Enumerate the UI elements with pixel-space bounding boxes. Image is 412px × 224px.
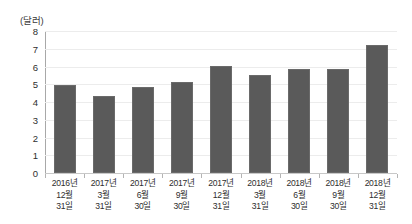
y-tick-label: 6	[8, 61, 38, 72]
bar	[54, 85, 76, 173]
y-tick-label: 5	[8, 79, 38, 90]
bar-chart: (달러) 876543210 2016년12월31일2017년3월31일2017…	[0, 0, 412, 224]
gridline-7	[45, 49, 397, 50]
x-label-line: 2018년	[354, 178, 400, 190]
bar	[366, 45, 388, 173]
gridline-0	[45, 173, 397, 174]
bar	[93, 96, 115, 173]
bar	[171, 82, 193, 173]
x-label-line: 12월	[354, 190, 400, 202]
gridline-8	[45, 31, 397, 32]
plot-area	[45, 31, 397, 173]
y-tick-label: 8	[8, 26, 38, 37]
bar	[132, 87, 154, 173]
y-tick-label: 0	[8, 168, 38, 179]
y-tick-label: 1	[8, 150, 38, 161]
x-label-line: 31일	[354, 201, 400, 213]
bar	[327, 69, 349, 173]
bar	[249, 75, 271, 174]
x-axis-category-label: 2018년12월31일	[354, 178, 400, 213]
y-tick-label: 3	[8, 114, 38, 125]
bar	[288, 69, 310, 173]
y-tick-label: 2	[8, 132, 38, 143]
y-tick-label: 7	[8, 43, 38, 54]
y-tick-label: 4	[8, 97, 38, 108]
bar	[210, 66, 232, 173]
